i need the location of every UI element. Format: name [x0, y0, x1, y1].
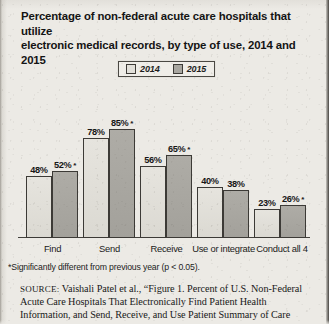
bar-value-send-2015: 85% *: [111, 118, 133, 128]
x-axis-label-conduct-all-4: Conduct all 4: [252, 243, 312, 254]
scanned-page: Percentage of non-federal acute care hos…: [0, 0, 329, 324]
bar-receive-2015: [166, 155, 192, 238]
bar-use-2015: [223, 190, 249, 238]
significance-star-find: *: [71, 161, 76, 170]
bar-group-use-or-integrate: 40% 38%: [197, 187, 249, 238]
bar-group-conduct-all-4: 23% 26% *: [254, 205, 306, 238]
chart-title: Percentage of non-federal acute care hos…: [21, 9, 306, 67]
bar-send-2014: [83, 138, 109, 238]
legend-label-2015: 2015: [187, 64, 207, 74]
bar-value-receive-2014: 56%: [144, 155, 162, 165]
bar-wrap-conduct-2014: 23%: [254, 209, 280, 238]
bar-send-2015: [109, 129, 135, 238]
legend-label-2014: 2014: [140, 64, 160, 74]
x-axis-baseline: [18, 237, 310, 238]
significance-footnote: *Significantly different from previous y…: [8, 262, 318, 272]
bar-conduct-2014: [254, 209, 280, 238]
bar-wrap-conduct-2015: 26% *: [280, 205, 306, 238]
bar-value-use-2014: 40%: [201, 176, 219, 186]
bar-conduct-2015: [280, 205, 306, 238]
bar-use-2014: [197, 187, 223, 238]
bar-value-find-2014: 48%: [30, 165, 48, 175]
x-axis-label-use-or-integrate: Use or integrate: [190, 243, 257, 254]
chart-title-line-1: Percentage of non-federal acute care hos…: [21, 10, 291, 37]
significance-star-send: *: [128, 119, 133, 128]
x-axis-label-find: Find: [26, 243, 79, 254]
bar-value-use-2015: 38%: [227, 179, 245, 189]
bar-receive-2014: [140, 166, 166, 238]
page-left-edge: [0, 0, 2, 324]
bottom-clip-fade: [0, 320, 329, 324]
bar-wrap-use-2015: 38%: [223, 190, 249, 238]
bar-wrap-receive-2014: 56%: [140, 166, 166, 238]
legend-item-2015: 2015: [173, 64, 207, 74]
bar-wrap-receive-2015: 65% *: [166, 155, 192, 238]
bar-find-2015: [52, 171, 78, 238]
bar-value-send-2014: 78%: [87, 127, 105, 137]
bar-wrap-find-2014: 48%: [26, 176, 52, 238]
source-prefix: SOURCE:: [20, 284, 59, 294]
source-line-1: Vaishali Patel et al., “Figure 1. Percen…: [59, 283, 302, 294]
legend-item-2014: 2014: [126, 64, 160, 74]
bar-wrap-send-2015: 85% *: [109, 129, 135, 238]
significance-star-conduct: *: [299, 195, 304, 204]
chart-legend: 2014 2015: [118, 61, 215, 77]
bar-group-send: 78% 85% *: [83, 129, 135, 238]
legend-swatch-2014: [126, 64, 136, 74]
bar-group-receive: 56% 65% *: [140, 155, 192, 238]
source-line-3: Information, and Send, Receive, and Use …: [20, 309, 290, 320]
bar-wrap-use-2014: 40%: [197, 187, 223, 238]
source-note: SOURCE: Vaishali Patel et al., “Figure 1…: [20, 283, 305, 321]
significance-star-receive: *: [185, 145, 190, 154]
bar-value-find-2015: 52% *: [54, 160, 76, 170]
x-axis-label-send: Send: [83, 243, 136, 254]
bar-value-conduct-2015: 26% *: [282, 194, 304, 204]
legend-swatch-2015: [173, 64, 183, 74]
bar-wrap-send-2014: 78%: [83, 138, 109, 238]
bar-group-find: 48% 52% *: [26, 171, 78, 238]
source-line-2: Acute Care Hospitals That Electronically…: [20, 296, 267, 307]
bar-value-conduct-2014: 23%: [258, 198, 276, 208]
bar-value-receive-2015: 65% *: [168, 144, 190, 154]
bar-find-2014: [26, 176, 52, 238]
x-axis-label-receive: Receive: [140, 243, 193, 254]
bar-wrap-find-2015: 52% *: [52, 171, 78, 238]
